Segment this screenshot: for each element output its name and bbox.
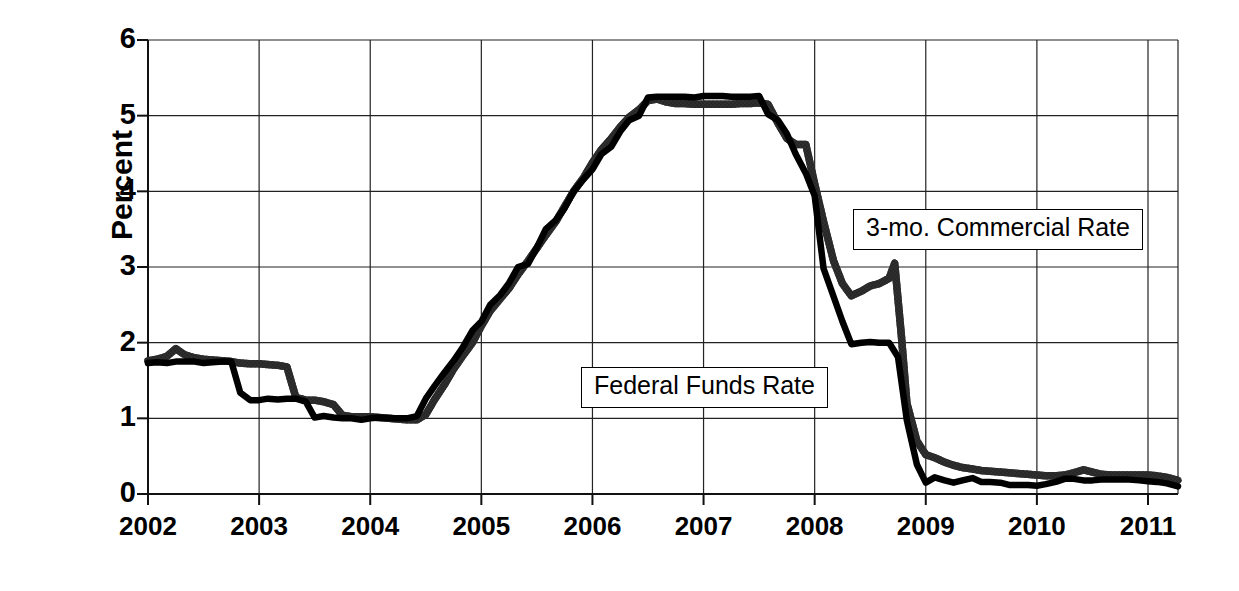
x-tick-label-2011: 2011	[1088, 511, 1208, 542]
line-commercial-rate	[148, 99, 1178, 480]
chart-container: Percent 0123456 200220032004200520062007…	[0, 0, 1239, 591]
x-tick-label-2007: 2007	[644, 511, 764, 542]
x-tick-label-2005: 2005	[421, 511, 541, 542]
x-tick-label-2006: 2006	[532, 511, 652, 542]
x-axis-tick-labels: 2002200320042005200620072008200920102011	[0, 511, 1239, 561]
plot-area	[0, 0, 1239, 591]
gridlines	[148, 40, 1178, 494]
x-tick-label-2010: 2010	[977, 511, 1097, 542]
x-tick-label-2002: 2002	[88, 511, 208, 542]
line-federal-funds-rate	[148, 96, 1178, 486]
series-label-federal-funds-rate: Federal Funds Rate	[581, 367, 828, 408]
x-tick-label-2009: 2009	[866, 511, 986, 542]
series-label-commercial-rate: 3-mo. Commercial Rate	[853, 209, 1143, 250]
x-tick-label-2003: 2003	[199, 511, 319, 542]
series-lines	[148, 96, 1178, 486]
x-tick-label-2004: 2004	[310, 511, 430, 542]
x-tick-label-2008: 2008	[755, 511, 875, 542]
